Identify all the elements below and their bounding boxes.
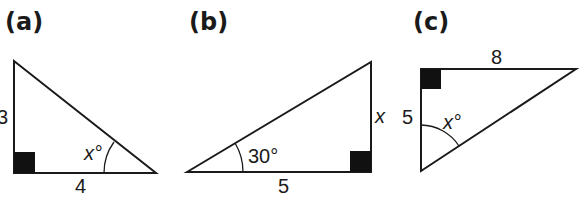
side-label-b-vertical: x xyxy=(374,105,386,127)
panel-a: (a) 3 4 x° xyxy=(0,8,156,197)
right-angle-marker-c xyxy=(421,69,441,89)
panel-b-label: (b) xyxy=(189,8,228,36)
angle-label-a: x° xyxy=(83,142,102,164)
panel-c: (c) 8 5 x° xyxy=(402,8,576,171)
angle-label-b: 30° xyxy=(248,145,278,167)
side-label-c-vertical: 5 xyxy=(402,106,413,128)
angle-arc-a xyxy=(104,142,114,173)
angle-arc-b xyxy=(235,143,243,172)
triangle-b xyxy=(187,62,371,172)
angle-label-c: x° xyxy=(442,111,461,133)
side-label-a-horizontal: 4 xyxy=(75,175,86,197)
right-angle-marker-a xyxy=(14,152,35,173)
right-angle-marker-b xyxy=(350,151,371,172)
side-label-c-horizontal: 8 xyxy=(491,46,502,68)
panel-a-label: (a) xyxy=(5,8,43,36)
side-label-a-vertical: 3 xyxy=(0,106,8,128)
triangles-figure: (a) 3 4 x° (b) 30° x 5 (c) 8 5 x° xyxy=(0,0,580,206)
side-label-b-horizontal: 5 xyxy=(278,175,289,197)
panel-b: (b) 30° x 5 xyxy=(187,8,386,197)
panel-c-label: (c) xyxy=(413,8,449,36)
